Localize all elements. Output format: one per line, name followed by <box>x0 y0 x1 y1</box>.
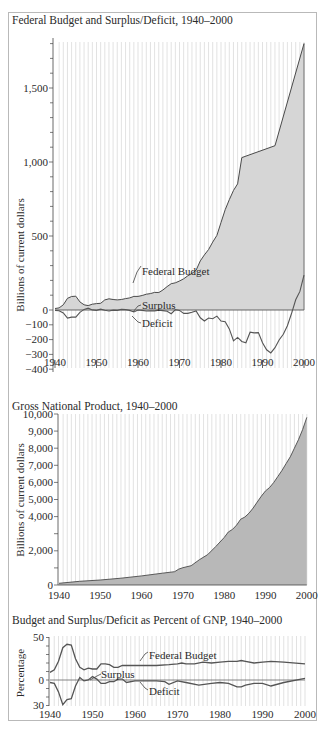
percent-deficit-leader <box>140 682 148 690</box>
percent-y-axis: 50030 <box>33 631 49 711</box>
y-tick-label: 2,000 <box>28 544 53 556</box>
percent-y-axis-label: Percentage <box>14 649 26 697</box>
percent-surplus-label: Surplus <box>101 668 135 680</box>
gnp-y-axis-label: Billions of current dollars <box>14 443 26 556</box>
x-tick-label: 1980 <box>213 589 236 601</box>
y-tick-label: 7,000 <box>28 459 53 471</box>
x-tick-label: 1990 <box>252 708 275 720</box>
x-tick-label: 1970 <box>172 589 195 601</box>
percent-x-axis: 1940195019601970198019902000 <box>39 708 317 720</box>
x-tick-label: 1990 <box>252 356 275 368</box>
charts-canvas: 1,5001,0005000−100−200−300−400 194019501… <box>0 0 325 732</box>
surplus-label: Surplus <box>142 299 176 311</box>
y-tick-label: −200 <box>25 333 48 345</box>
gnp-x-axis: 1940195019601970198019902000 <box>48 589 318 601</box>
percent-budget-leader <box>140 652 148 661</box>
budget-leader-line <box>133 266 141 283</box>
y-tick-label: 1,500 <box>23 82 48 94</box>
x-tick-label: 1970 <box>167 708 190 720</box>
x-tick-label: 1950 <box>86 356 109 368</box>
x-tick-label: 1960 <box>124 708 147 720</box>
x-tick-label: 1940 <box>44 356 67 368</box>
y-tick-label: 8,000 <box>28 442 53 454</box>
x-tick-label: 1950 <box>82 708 105 720</box>
percent-budget-label: Federal Budget <box>149 649 217 661</box>
percent-chart-grid <box>54 636 305 706</box>
x-tick-label: 1960 <box>127 356 150 368</box>
x-tick-label: 1970 <box>169 356 192 368</box>
y-tick-label: 10,000 <box>23 408 54 420</box>
federal-budget-label: Federal Budget <box>142 265 210 277</box>
percent-deficit-label: Deficit <box>149 685 180 697</box>
deficit-leader-line <box>132 316 141 323</box>
x-tick-label: 2000 <box>294 708 317 720</box>
y-tick-label: 0 <box>43 304 49 316</box>
x-tick-label: 1950 <box>89 589 112 601</box>
y-tick-label: 6,000 <box>28 476 53 488</box>
y-tick-label: 4,000 <box>28 510 53 522</box>
x-tick-label: 2000 <box>296 589 319 601</box>
x-tick-label: 1960 <box>131 589 154 601</box>
gnp-chart: 10,0009,0008,0007,0006,0005,0004,0002,00… <box>14 408 318 602</box>
y-tick-label: −100 <box>25 318 48 330</box>
y-tick-label: 1,000 <box>23 156 48 168</box>
deficit-label: Deficit <box>142 317 173 329</box>
budget-y-axis: 1,5001,0005000−100−200−300−400 <box>23 38 53 375</box>
x-tick-label: 1940 <box>48 589 71 601</box>
budget-y-axis-label: Billions of current dollars <box>14 198 26 311</box>
y-tick-label: 0 <box>39 674 45 686</box>
y-tick-label: 50 <box>33 631 45 643</box>
percent-chart: 50030 1940195019601970198019902000 Perce… <box>14 631 317 720</box>
y-tick-label: 9,000 <box>28 425 53 437</box>
x-tick-label: 1980 <box>210 356 233 368</box>
y-tick-label: 5,000 <box>28 493 53 505</box>
y-tick-label: 500 <box>32 230 49 242</box>
x-tick-label: 2000 <box>293 356 316 368</box>
x-tick-label: 1980 <box>209 708 232 720</box>
x-tick-label: 1990 <box>255 589 278 601</box>
x-tick-label: 1940 <box>39 708 62 720</box>
budget-chart: 1,5001,0005000−100−200−300−400 194019501… <box>14 38 316 375</box>
